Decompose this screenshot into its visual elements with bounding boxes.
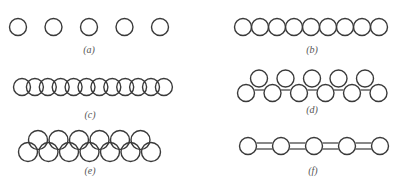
panel-d bbox=[238, 70, 388, 102]
panel-a bbox=[10, 19, 169, 36]
figure-canvas: (a) (b) (c) (d) (e) (f) bbox=[0, 0, 400, 185]
circle-shape bbox=[277, 70, 294, 87]
circle-shape bbox=[142, 143, 161, 162]
circle-shape bbox=[238, 85, 255, 102]
circle-shape bbox=[330, 70, 347, 87]
circle-shape bbox=[286, 19, 303, 36]
circle-shape bbox=[264, 85, 281, 102]
circle-shape bbox=[19, 143, 38, 162]
circle-shape bbox=[306, 138, 323, 155]
circle-shape bbox=[291, 85, 308, 102]
circle-shape bbox=[39, 143, 58, 162]
circle-shape bbox=[337, 19, 354, 36]
panel-c bbox=[14, 79, 173, 96]
circle-shape bbox=[60, 143, 79, 162]
circle-shape bbox=[344, 85, 361, 102]
panel-e bbox=[19, 131, 161, 162]
circle-shape bbox=[354, 19, 371, 36]
circle-shape bbox=[49, 131, 68, 150]
panel-f bbox=[240, 138, 389, 155]
panel-a-label: (a) bbox=[83, 44, 95, 56]
circle-shape bbox=[131, 131, 150, 150]
panel-e-label: (e) bbox=[84, 165, 96, 177]
circle-shape bbox=[320, 19, 337, 36]
circle-shape bbox=[121, 143, 140, 162]
circle-shape bbox=[235, 19, 252, 36]
circle-shape bbox=[317, 85, 334, 102]
circle-shape bbox=[240, 138, 257, 155]
circle-shape bbox=[45, 19, 62, 36]
circle-shape bbox=[357, 70, 374, 87]
circle-shape bbox=[370, 85, 387, 102]
circle-shape bbox=[10, 19, 27, 36]
circle-shape bbox=[152, 19, 169, 36]
circle-shape bbox=[111, 131, 130, 150]
panel-b bbox=[235, 19, 388, 36]
panel-c-label: (c) bbox=[84, 109, 96, 121]
circle-shape bbox=[80, 143, 99, 162]
circle-shape bbox=[90, 131, 109, 150]
circle-shape bbox=[372, 138, 389, 155]
circle-shape bbox=[304, 70, 321, 87]
circle-shape bbox=[29, 131, 48, 150]
circle-shape bbox=[116, 19, 133, 36]
circle-shape bbox=[70, 131, 89, 150]
circle-shape bbox=[252, 19, 269, 36]
circle-shape bbox=[81, 19, 98, 36]
panel-f-label: (f) bbox=[308, 165, 318, 177]
panel-b-label: (b) bbox=[306, 44, 318, 56]
circle-shape bbox=[371, 19, 388, 36]
circle-shape bbox=[303, 19, 320, 36]
circle-shape bbox=[269, 19, 286, 36]
circle-shape bbox=[155, 79, 172, 96]
panel-d-label: (d) bbox=[306, 104, 318, 116]
circle-shape bbox=[339, 138, 356, 155]
circle-shape bbox=[273, 138, 290, 155]
circle-shape bbox=[251, 70, 268, 87]
circle-shape bbox=[101, 143, 120, 162]
